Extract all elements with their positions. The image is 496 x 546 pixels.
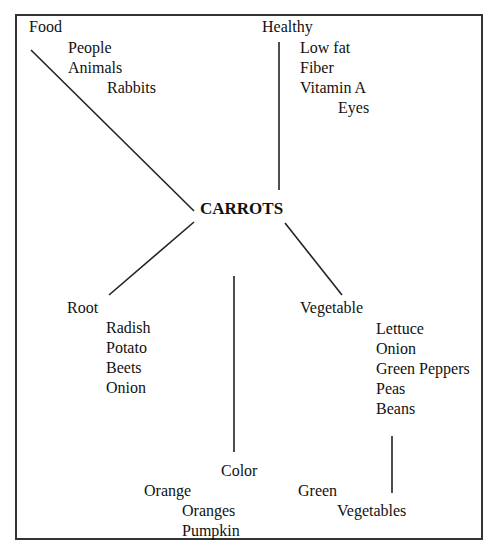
- food-item: Animals: [68, 58, 122, 78]
- vegetable-item: Onion: [376, 339, 416, 359]
- line-root: [109, 222, 194, 295]
- vegetable-item: Lettuce: [376, 319, 424, 339]
- vegetable-item: Peas: [376, 379, 405, 399]
- green-item: Vegetables: [337, 501, 406, 521]
- food-item: People: [68, 38, 112, 58]
- color-item: Pumpkin: [182, 521, 240, 541]
- root-item: Beets: [106, 358, 142, 378]
- central-topic: CARROTS: [200, 199, 283, 219]
- line-vegetable: [285, 223, 342, 295]
- vegetable-item: Green Peppers: [376, 359, 470, 379]
- healthy-item: Low fat: [300, 38, 350, 58]
- healthy-item: Fiber: [300, 58, 334, 78]
- branch-food: Food: [29, 17, 62, 37]
- branch-green: Green: [298, 481, 337, 501]
- root-item: Potato: [106, 338, 147, 358]
- food-item: Rabbits: [107, 78, 156, 98]
- root-item: Onion: [106, 378, 146, 398]
- color-item: Oranges: [182, 501, 235, 521]
- vegetable-item: Beans: [376, 399, 415, 419]
- healthy-item: Vitamin A: [300, 78, 366, 98]
- root-item: Radish: [106, 318, 150, 338]
- color-item: Orange: [144, 481, 191, 501]
- branch-vegetable: Vegetable: [300, 298, 363, 318]
- branch-color: Color: [221, 461, 257, 481]
- branch-root: Root: [67, 298, 98, 318]
- healthy-item: Eyes: [338, 98, 369, 118]
- branch-healthy: Healthy: [262, 17, 313, 37]
